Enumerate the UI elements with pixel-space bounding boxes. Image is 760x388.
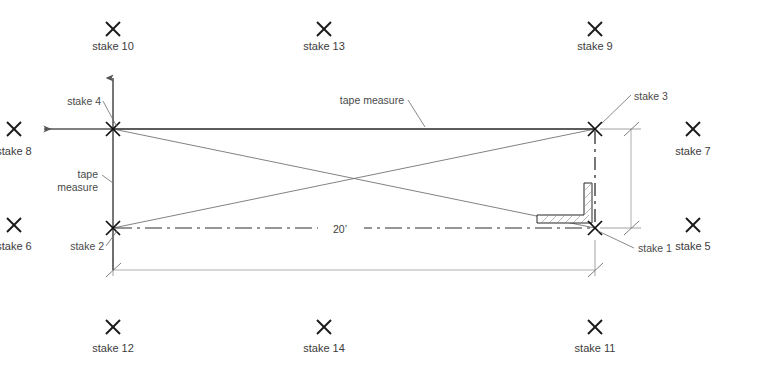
stake-label-5: stake 5 [675,240,710,252]
stake-label-3: stake 3 [634,90,668,102]
stake-label-1: stake 1 [638,242,672,254]
stake-label-10: stake 10 [92,40,134,52]
foundation-corner-group [537,183,592,223]
annotation-tape-measure-top: tape measure [340,94,404,106]
diagram-canvas: stake 10 stake 13 stake 9 stake 8 stake … [0,0,760,388]
stake-mark-6-icon [7,218,21,232]
stake-label-9: stake 9 [577,40,612,52]
stake-label-8: stake 8 [0,145,32,157]
dimension-group-right [600,122,641,235]
diagonal-lines-group [113,129,595,228]
stake-mark-8-icon [7,122,21,136]
stake-mark-12-icon [106,320,120,334]
dimension-group-bottom [106,240,603,277]
stake-label-14: stake 14 [303,342,345,354]
labels-group: stake 10 stake 13 stake 9 stake 8 stake … [0,40,711,354]
leader-tape-measure-top [408,100,425,127]
leader-tape-measure-left [102,175,113,183]
stake-label-11: stake 11 [575,342,616,354]
annotation-tape-measure-left-line2: measure [57,181,98,193]
stake-label-7: stake 7 [675,145,710,157]
stake-mark-9-icon [588,22,602,36]
stake-mark-11-icon [588,320,602,334]
stake-mark-1-icon [588,221,602,235]
tape-measure-axes-group [44,78,595,270]
dimension-label-width: 20’ [333,223,347,235]
stake-mark-7-icon [686,122,700,136]
stake-label-4: stake 4 [67,95,101,107]
stake-mark-5-icon [686,218,700,232]
leader-stake-1 [598,231,634,248]
stake-mark-10-icon [106,22,120,36]
stake-label-12: stake 12 [92,342,134,354]
stake-label-6: stake 6 [0,240,32,252]
stake-label-13: stake 13 [303,40,345,52]
leader-stake-4 [103,101,117,127]
stake-mark-14-icon [317,320,331,334]
leader-stake-3 [598,95,631,127]
leader-lines-group [102,95,634,248]
stake-mark-13-icon [317,22,331,36]
annotation-tape-measure-left-line1: tape [78,168,99,180]
stake-label-2: stake 2 [70,240,104,252]
centerline-group [115,131,596,238]
stake-layout-diagram: stake 10 stake 13 stake 9 stake 8 stake … [0,0,760,388]
